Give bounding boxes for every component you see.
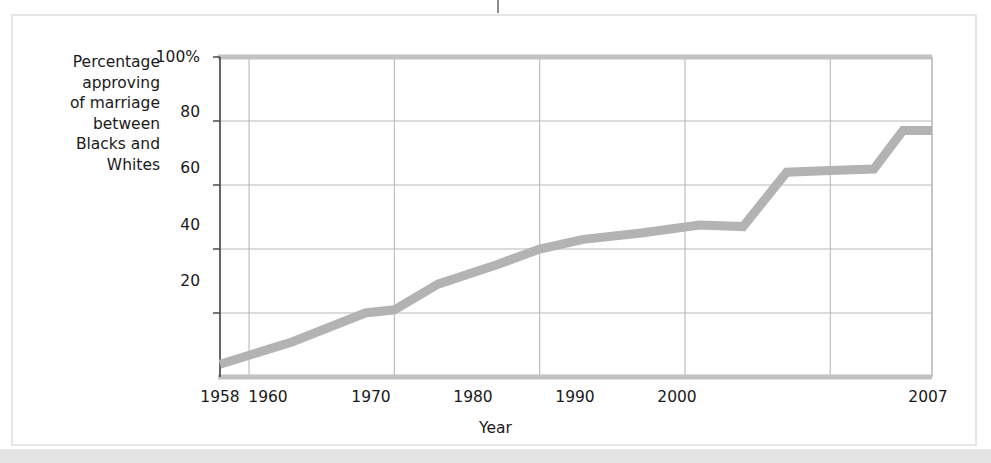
series-line-approval	[220, 131, 932, 365]
data-series-line	[220, 131, 932, 365]
plot-canvas	[0, 0, 991, 463]
line-chart: Percentage approving of marriage between…	[0, 0, 991, 463]
page-root: Percentage approving of marriage between…	[0, 0, 991, 463]
